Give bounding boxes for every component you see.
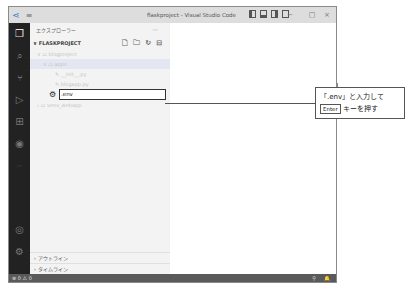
- run-debug-icon[interactable]: ▷: [13, 93, 26, 106]
- tree-item-blogapp-py[interactable]: ✎ blogapp.py: [30, 79, 170, 89]
- more-actions-icon[interactable]: ···: [152, 23, 158, 37]
- explorer-title: エクスプローラー: [36, 27, 76, 33]
- remote-explorer-icon[interactable]: ◉: [13, 137, 26, 150]
- refresh-icon[interactable]: ↻: [145, 37, 151, 49]
- bell-icon[interactable]: 🔔: [324, 274, 330, 282]
- python-file-icon: ✎: [55, 71, 59, 77]
- extensions-icon[interactable]: ⊞: [13, 115, 26, 128]
- problems-indicator[interactable]: ⊗ 0 ⚠ 0: [12, 274, 32, 282]
- explorer-sidebar: エクスプローラー ··· ∨ FLASKPROJECT 🗋 🗀 ↻ ⊟ ∨ ▭ …: [30, 23, 170, 274]
- minimize-button[interactable]: −: [279, 7, 301, 23]
- workspace-title: FLASKPROJECT: [39, 40, 81, 46]
- tree-item-blogproject[interactable]: ∨ ▭ blogproject: [30, 49, 170, 59]
- window-title: flaskproject - Visual Studio Code: [147, 7, 236, 23]
- warning-count: ⚠ 0: [23, 275, 32, 281]
- collapse-all-icon[interactable]: ⊟: [156, 37, 162, 49]
- account-status-icon[interactable]: ⚲: [312, 274, 316, 282]
- new-file-icon[interactable]: 🗋: [122, 37, 128, 49]
- title-bar: ⋖ ≡ flaskproject - Visual Studio Code − …: [9, 7, 336, 23]
- folder-icon: › ▭: [37, 102, 45, 108]
- source-control-icon[interactable]: ⑂: [13, 71, 26, 84]
- toggle-panel-icon[interactable]: [260, 10, 267, 18]
- folder-icon: ∨ ▭: [43, 61, 53, 67]
- callout-line-2: Enter キーを押す: [320, 103, 400, 115]
- outline-section[interactable]: › アウトライン: [30, 252, 170, 263]
- timeline-section[interactable]: › タイムライン: [30, 263, 170, 274]
- new-file-name-input[interactable]: .env: [59, 89, 166, 100]
- close-button[interactable]: ×: [316, 7, 337, 23]
- file-tree: ∨ ▭ blogproject ∨ ▭ apps ✎ __init__.py ✎…: [30, 49, 170, 110]
- account-icon[interactable]: ◎: [13, 223, 26, 236]
- explorer-icon[interactable]: ❐: [13, 27, 26, 40]
- editor-area: [170, 23, 336, 274]
- workspace-section[interactable]: ∨ FLASKPROJECT 🗋 🗀 ↻ ⊟: [30, 37, 170, 49]
- more-icon[interactable]: ···: [13, 159, 26, 172]
- gear-icon[interactable]: ⚙: [13, 245, 26, 258]
- chevron-right-icon: ›: [34, 255, 36, 261]
- sidebar-bottom-sections: › アウトライン › タイムライン: [30, 252, 170, 274]
- vscode-window: ⋖ ≡ flaskproject - Visual Studio Code − …: [8, 6, 337, 283]
- activity-bar: ❐ ⌕ ⑂ ▷ ⊞ ◉ ··· ◎ ⚙: [9, 23, 30, 274]
- toggle-primary-sidebar-icon[interactable]: [249, 10, 256, 18]
- new-file-row: ⚙ .env: [30, 89, 170, 100]
- explorer-header: エクスプローラー ···: [30, 23, 170, 37]
- enter-key-label: Enter: [320, 104, 341, 114]
- tree-item-apps[interactable]: ∨ ▭ apps: [30, 59, 170, 69]
- search-icon[interactable]: ⌕: [13, 49, 26, 62]
- callout-connector-line: [165, 103, 315, 104]
- callout-line-1: 「.env」と入力して: [320, 91, 400, 103]
- status-bar: ⊗ 0 ⚠ 0 ⚲ 🔔: [9, 274, 336, 282]
- chevron-down-icon: ∨: [33, 40, 37, 46]
- new-folder-icon[interactable]: 🗀: [133, 37, 140, 49]
- folder-icon: ∨ ▭: [37, 51, 47, 57]
- hamburger-icon[interactable]: ≡: [23, 11, 35, 20]
- settings-file-icon: ⚙: [49, 90, 56, 99]
- error-count: ⊗ 0: [12, 275, 21, 281]
- tree-item-venv-webapp[interactable]: › ▭ venv_webapp: [30, 100, 170, 110]
- chevron-right-icon: ›: [34, 266, 36, 272]
- tree-item-init-py[interactable]: ✎ __init__.py: [30, 69, 170, 79]
- instruction-callout: 「.env」と入力して Enter キーを押す: [315, 87, 405, 119]
- vscode-logo-icon: ⋖: [9, 7, 23, 23]
- toggle-secondary-sidebar-icon[interactable]: [271, 10, 278, 18]
- python-file-icon: ✎: [55, 81, 59, 87]
